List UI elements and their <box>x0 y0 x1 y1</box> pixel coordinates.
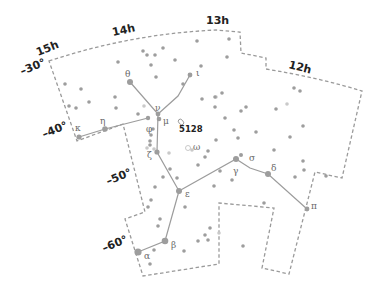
star <box>183 205 187 209</box>
ra-label: 13h <box>206 14 229 27</box>
star <box>220 91 224 95</box>
dec-label: –30° <box>18 56 47 78</box>
star-label: α <box>144 251 150 261</box>
star <box>113 95 117 99</box>
dec-label: –60° <box>100 233 129 255</box>
star <box>199 64 203 68</box>
star <box>301 159 305 163</box>
star <box>181 82 185 86</box>
star-label: δ <box>271 163 276 173</box>
star <box>239 109 243 113</box>
star-label: σ <box>249 153 255 163</box>
star-label: θ <box>125 69 130 79</box>
right-ascension-labels: 15h14h13h12h <box>34 14 313 77</box>
stick-line <box>79 118 148 137</box>
star-label: μ <box>163 116 169 126</box>
declination-labels: –30°–40°–50°–60° <box>18 56 133 255</box>
star <box>213 95 217 99</box>
star-label: ζ <box>147 150 152 160</box>
star <box>213 105 217 109</box>
star <box>158 217 162 221</box>
star <box>301 124 305 128</box>
star-label: η <box>100 116 105 126</box>
star-θ <box>127 79 133 85</box>
stick-line <box>158 75 190 114</box>
star <box>114 106 118 110</box>
ngc-label: 5128 <box>179 124 203 134</box>
star <box>236 136 240 140</box>
star-label: ε <box>185 189 190 199</box>
constellation-boundary <box>49 30 362 276</box>
faint-star <box>285 102 289 106</box>
star <box>149 198 153 202</box>
star <box>227 37 231 41</box>
star <box>74 106 78 110</box>
star <box>232 128 236 132</box>
dec-label: –40° <box>40 119 69 141</box>
star-β <box>162 238 169 245</box>
star <box>212 184 216 188</box>
ra-label: 14h <box>111 21 136 39</box>
star <box>214 138 218 142</box>
star <box>254 130 258 134</box>
star <box>154 75 158 79</box>
dec-label: –50° <box>104 166 133 188</box>
star <box>298 89 302 93</box>
star <box>161 175 165 179</box>
star <box>175 176 179 180</box>
star-η <box>102 126 108 132</box>
star-label: ι <box>196 68 200 78</box>
star-label: π <box>311 201 317 211</box>
cluster-icon <box>186 146 191 151</box>
star <box>168 167 172 171</box>
star-label: ω <box>193 142 200 152</box>
star <box>230 178 234 182</box>
star <box>196 239 200 243</box>
star <box>146 205 150 209</box>
star-φ <box>146 116 150 120</box>
star <box>148 143 152 147</box>
star <box>225 55 229 59</box>
star-σ <box>239 153 243 157</box>
star <box>262 201 266 205</box>
star <box>200 97 204 101</box>
star <box>324 174 328 178</box>
star <box>218 169 222 173</box>
star <box>141 49 145 53</box>
star-label: γ <box>233 166 238 176</box>
ra-label: 15h <box>34 38 60 59</box>
star <box>244 105 248 109</box>
star <box>203 155 207 159</box>
star-label: κ <box>75 123 81 133</box>
star <box>67 104 71 108</box>
star <box>274 107 278 111</box>
star <box>206 238 210 242</box>
faint-star <box>142 104 146 108</box>
star <box>156 224 160 228</box>
faint-star <box>217 231 221 235</box>
star <box>148 262 152 266</box>
star <box>288 135 292 139</box>
star-μ <box>157 117 162 122</box>
faint-star <box>167 151 171 155</box>
star <box>272 148 276 152</box>
star <box>182 249 186 253</box>
star <box>223 116 227 120</box>
star-ι <box>188 73 193 78</box>
star <box>195 39 199 43</box>
star <box>203 233 207 237</box>
star-label: φ <box>146 124 152 134</box>
star <box>196 163 200 167</box>
star-γ <box>233 156 239 162</box>
star <box>241 244 245 248</box>
star-π <box>305 207 310 212</box>
star <box>145 53 149 57</box>
star <box>63 82 67 86</box>
deep-sky-objects: 5128 <box>177 118 202 134</box>
star-label: β <box>171 240 176 250</box>
star-label: ν <box>155 103 160 113</box>
star <box>87 100 91 104</box>
star <box>173 58 177 62</box>
star <box>302 168 306 172</box>
star-chart: αβγδεζηθικμνπσφω 5128 15h14h13h12h –30°–… <box>0 0 381 295</box>
